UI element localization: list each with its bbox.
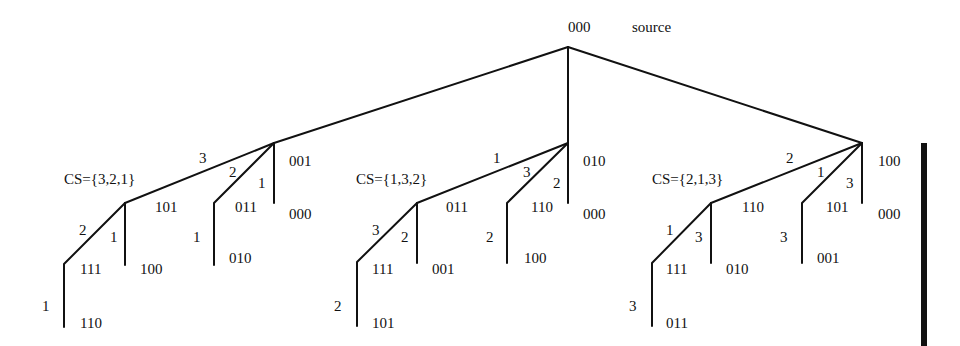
- edge-label: 1: [42, 299, 50, 314]
- node-label: 011: [666, 316, 688, 331]
- node-label: 111: [372, 262, 393, 277]
- change-bar: [921, 143, 927, 346]
- edge-label: 3: [695, 230, 703, 245]
- edge-label: 3: [846, 176, 854, 191]
- node-label: 011: [446, 200, 468, 215]
- edge-label: 2: [786, 151, 794, 166]
- broadcast-tree-diagram: 000 source CS={3,2,1} 3 2 1 001 000 101 …: [0, 0, 960, 346]
- node-label: 001: [817, 251, 840, 266]
- tree-edges: [0, 0, 960, 346]
- node-label: 100: [140, 262, 163, 277]
- edge-label: 1: [493, 151, 501, 166]
- edge-label: 1: [110, 230, 118, 245]
- edge-root-left: [274, 47, 568, 143]
- edge-label: 3: [629, 299, 637, 314]
- edge-label: 1: [258, 176, 266, 191]
- node-label: 010: [726, 262, 749, 277]
- cs-label: CS={2,1,3}: [652, 172, 723, 187]
- node-label: 011: [235, 200, 257, 215]
- node-label: 111: [80, 262, 101, 277]
- edge-label: 1: [193, 230, 201, 245]
- edge-label: 1: [666, 223, 674, 238]
- node-label: 001: [432, 262, 455, 277]
- node-label: 001: [289, 154, 312, 169]
- node-label: 000: [878, 207, 901, 222]
- edge-label: 2: [229, 165, 237, 180]
- edge-label: 2: [79, 223, 87, 238]
- cs-label: CS={1,3,2}: [356, 172, 427, 187]
- node-label: 100: [878, 154, 901, 169]
- edge-root-right: [568, 47, 862, 143]
- node-label: 101: [826, 200, 849, 215]
- edge-label: 1: [817, 165, 825, 180]
- node-label: 000: [583, 207, 606, 222]
- edge-label: 3: [780, 230, 788, 245]
- node-label: 100: [524, 251, 547, 266]
- node-label: 010: [229, 251, 252, 266]
- edge-label: 3: [199, 151, 207, 166]
- node-label: 111: [666, 262, 687, 277]
- edge-label: 2: [486, 230, 494, 245]
- node-label: 110: [531, 200, 553, 215]
- cs-label: CS={3,2,1}: [64, 172, 135, 187]
- edge-label: 3: [372, 223, 380, 238]
- edge-label: 2: [334, 299, 342, 314]
- node-label: 101: [155, 200, 178, 215]
- node-label: 110: [742, 200, 764, 215]
- root-source-note: source: [632, 20, 671, 35]
- edge-label: 2: [401, 230, 409, 245]
- node-label: 110: [80, 316, 102, 331]
- node-label: 000: [289, 207, 312, 222]
- edge-label: 3: [523, 165, 531, 180]
- node-label: 101: [372, 316, 395, 331]
- edge-label: 2: [553, 176, 561, 191]
- root-node-label: 000: [568, 20, 591, 35]
- node-label: 010: [583, 154, 606, 169]
